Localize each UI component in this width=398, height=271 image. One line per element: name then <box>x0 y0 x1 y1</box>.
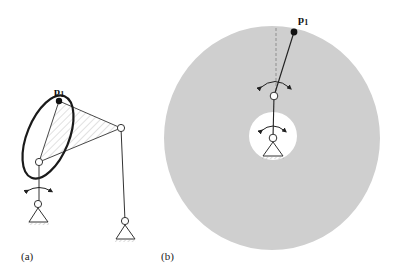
label-p1-b: p1 <box>298 13 308 27</box>
ground-pivot-left <box>28 200 49 225</box>
rocker-link <box>121 128 125 221</box>
joint-coupler <box>35 158 42 165</box>
ground-pivot-right <box>115 217 136 242</box>
panel-a: p1 (a) <box>12 85 136 263</box>
caption-b: (b) <box>161 250 174 263</box>
coupler-triangle <box>39 101 121 162</box>
panel-b: p1 (b) <box>161 13 380 263</box>
joint-elbow <box>270 92 278 100</box>
diagram-canvas: p1 (a) p1 (b) <box>0 0 398 271</box>
joint-rocker-top <box>117 124 124 131</box>
caption-a: (a) <box>21 250 34 263</box>
ground-pivot-base <box>262 134 284 159</box>
label-p1-a: p1 <box>54 85 64 99</box>
point-p1-b <box>291 29 298 36</box>
